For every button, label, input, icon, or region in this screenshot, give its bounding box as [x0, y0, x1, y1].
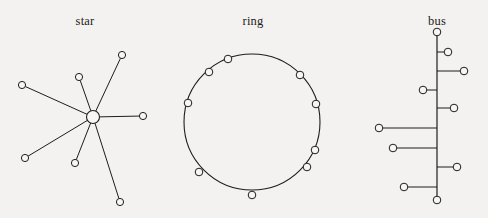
bus-node[interactable]	[375, 124, 383, 132]
star-edge	[100, 116, 140, 117]
bus-node[interactable]	[453, 163, 461, 171]
ring-node[interactable]	[224, 55, 232, 63]
star-edge	[25, 86, 87, 114]
figure-bus	[375, 28, 468, 204]
bus-node[interactable]	[400, 183, 408, 191]
ring-node[interactable]	[303, 163, 311, 171]
ring-node[interactable]	[248, 191, 256, 199]
star-leaf-node[interactable]	[118, 51, 125, 58]
star-leaf-node[interactable]	[75, 73, 82, 80]
ring-node[interactable]	[184, 99, 192, 107]
star-leaf-node[interactable]	[21, 154, 28, 161]
star-edge	[96, 58, 121, 111]
bus-terminator-node[interactable]	[433, 196, 441, 204]
star-edge	[28, 120, 87, 156]
figure-caption-star: star	[76, 14, 95, 29]
star-hub-node[interactable]	[87, 111, 100, 124]
bus-node[interactable]	[389, 144, 397, 152]
star-edge	[80, 80, 91, 110]
star-edge	[95, 123, 119, 198]
figure-ring	[184, 54, 320, 199]
ring-node[interactable]	[312, 100, 320, 108]
bus-terminator-node[interactable]	[433, 28, 441, 36]
bus-node[interactable]	[444, 48, 452, 56]
star-leaf-node[interactable]	[139, 112, 146, 119]
ring-node[interactable]	[205, 68, 213, 76]
bus-node[interactable]	[460, 67, 468, 75]
ring-node[interactable]	[296, 71, 304, 79]
star-edge	[76, 123, 90, 160]
star-leaf-node[interactable]	[116, 198, 123, 205]
topology-figure-panel: star ring bus	[0, 0, 488, 218]
star-leaf-node[interactable]	[18, 81, 25, 88]
star-leaf-node[interactable]	[71, 159, 78, 166]
figure-star	[18, 51, 146, 205]
figure-caption-bus: bus	[428, 14, 446, 29]
ring-node[interactable]	[195, 168, 203, 176]
topology-diagram-canvas	[0, 0, 488, 218]
ring-node[interactable]	[311, 146, 319, 154]
bus-node[interactable]	[419, 86, 427, 94]
figure-caption-ring: ring	[243, 14, 264, 29]
bus-node[interactable]	[450, 104, 458, 112]
